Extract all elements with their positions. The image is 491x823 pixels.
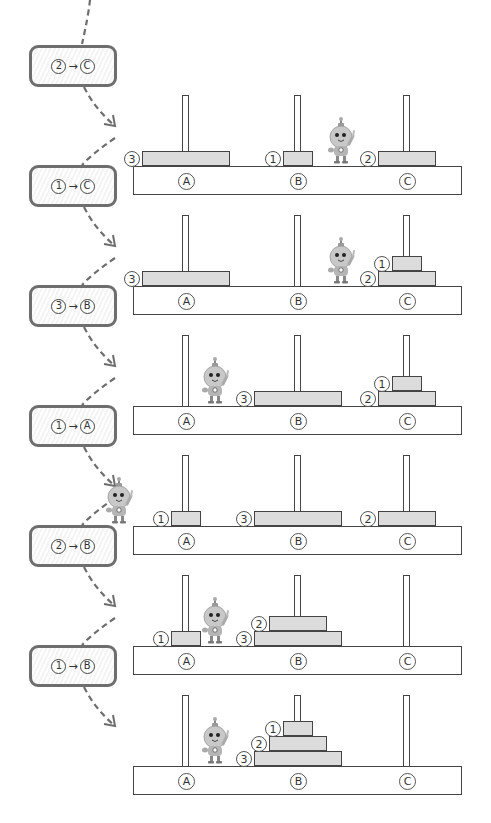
- right-arrow-icon: →: [68, 300, 77, 313]
- disk-2: [269, 616, 327, 631]
- robot-mascot-icon: [200, 716, 232, 764]
- move-step-box: 1→A: [29, 405, 117, 447]
- move-step-box: 3→B: [29, 285, 117, 327]
- peg-label-b: B: [290, 173, 307, 190]
- peg-label-b: B: [290, 413, 307, 430]
- peg-label-a: A: [178, 773, 195, 790]
- target-peg-badge: B: [80, 299, 95, 314]
- right-arrow-icon: →: [68, 180, 77, 193]
- peg-label-c: C: [399, 413, 416, 430]
- disk-label-2: 2: [360, 511, 376, 527]
- peg-label-b: B: [290, 293, 307, 310]
- right-arrow-icon: →: [68, 540, 77, 553]
- disk-2: [378, 511, 436, 526]
- disk-label-2: 2: [360, 151, 376, 167]
- disk-1: [392, 376, 422, 391]
- disk-3: [254, 751, 342, 766]
- disk-1: [392, 256, 422, 271]
- disk-3: [254, 391, 342, 406]
- disk-2: [269, 736, 327, 751]
- peg-c: [403, 575, 410, 647]
- disk-1: [171, 631, 201, 646]
- target-peg-badge: C: [80, 179, 95, 194]
- peg-label-a: A: [178, 173, 195, 190]
- peg-label-a: A: [178, 533, 195, 550]
- robot-mascot-icon: [326, 116, 358, 164]
- peg-label-c: C: [399, 773, 416, 790]
- peg-label-a: A: [178, 413, 195, 430]
- peg-label-c: C: [399, 293, 416, 310]
- robot-mascot-icon: [104, 476, 136, 524]
- move-step-box: 2→B: [29, 525, 117, 567]
- disk-label-1: 1: [374, 256, 390, 272]
- move-step-box: 2→C: [29, 45, 117, 87]
- disk-3: [142, 151, 230, 166]
- disk-label-3: 3: [236, 511, 252, 527]
- disk-number-badge: 1: [51, 659, 66, 674]
- disk-1: [283, 721, 313, 736]
- peg-label-c: C: [399, 533, 416, 550]
- target-peg-badge: C: [80, 59, 95, 74]
- move-step-box: 1→C: [29, 165, 117, 207]
- disk-3: [254, 511, 342, 526]
- peg-b: [294, 215, 301, 287]
- disk-label-3: 3: [236, 751, 252, 767]
- peg-label-c: C: [399, 173, 416, 190]
- disk-label-3: 3: [236, 631, 252, 647]
- peg-label-b: B: [290, 533, 307, 550]
- disk-label-1: 1: [153, 631, 169, 647]
- disk-label-2: 2: [251, 736, 267, 752]
- robot-mascot-icon: [200, 596, 232, 644]
- disk-label-2: 2: [360, 391, 376, 407]
- disk-number-badge: 3: [51, 299, 66, 314]
- right-arrow-icon: →: [68, 60, 77, 73]
- peg-label-b: B: [290, 773, 307, 790]
- peg-a: [182, 335, 189, 407]
- target-peg-badge: B: [80, 659, 95, 674]
- peg-label-a: A: [178, 653, 195, 670]
- disk-2: [378, 151, 436, 166]
- disk-label-3: 3: [124, 151, 140, 167]
- move-step-box: 1→B: [29, 645, 117, 687]
- disk-number-badge: 2: [51, 539, 66, 554]
- disk-label-1: 1: [153, 511, 169, 527]
- disk-label-1: 1: [374, 376, 390, 392]
- disk-label-3: 3: [236, 391, 252, 407]
- peg-label-a: A: [178, 293, 195, 310]
- target-peg-badge: A: [80, 419, 95, 434]
- disk-label-1: 1: [265, 151, 281, 167]
- disk-label-3: 3: [124, 271, 140, 287]
- robot-mascot-icon: [326, 236, 358, 284]
- right-arrow-icon: →: [68, 420, 77, 433]
- disk-1: [171, 511, 201, 526]
- disk-label-1: 1: [265, 721, 281, 737]
- peg-c: [403, 695, 410, 767]
- disk-label-2: 2: [251, 616, 267, 632]
- disk-2: [378, 271, 436, 286]
- robot-mascot-icon: [200, 356, 232, 404]
- disk-number-badge: 1: [51, 179, 66, 194]
- disk-3: [254, 631, 342, 646]
- disk-number-badge: 1: [51, 419, 66, 434]
- peg-label-b: B: [290, 653, 307, 670]
- disk-label-2: 2: [360, 271, 376, 287]
- peg-label-c: C: [399, 653, 416, 670]
- disk-number-badge: 2: [51, 59, 66, 74]
- disk-1: [283, 151, 313, 166]
- disk-3: [142, 271, 230, 286]
- target-peg-badge: B: [80, 539, 95, 554]
- disk-2: [378, 391, 436, 406]
- peg-a: [182, 695, 189, 767]
- right-arrow-icon: →: [68, 660, 77, 673]
